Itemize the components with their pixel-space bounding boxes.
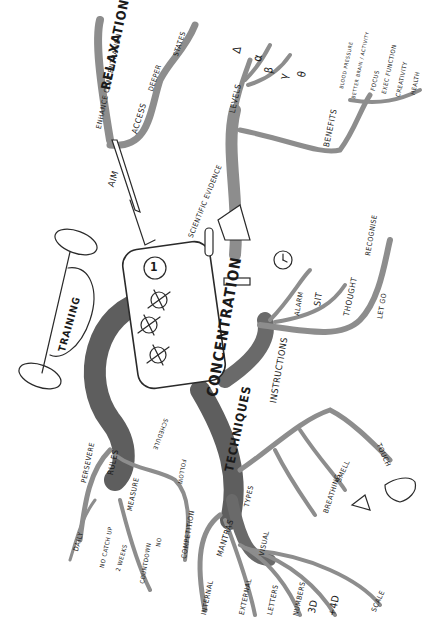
center-badge: 1 [150,260,158,274]
hand-illustration [352,478,416,510]
science-illustration [205,205,292,285]
rifle-illustration [112,140,155,245]
